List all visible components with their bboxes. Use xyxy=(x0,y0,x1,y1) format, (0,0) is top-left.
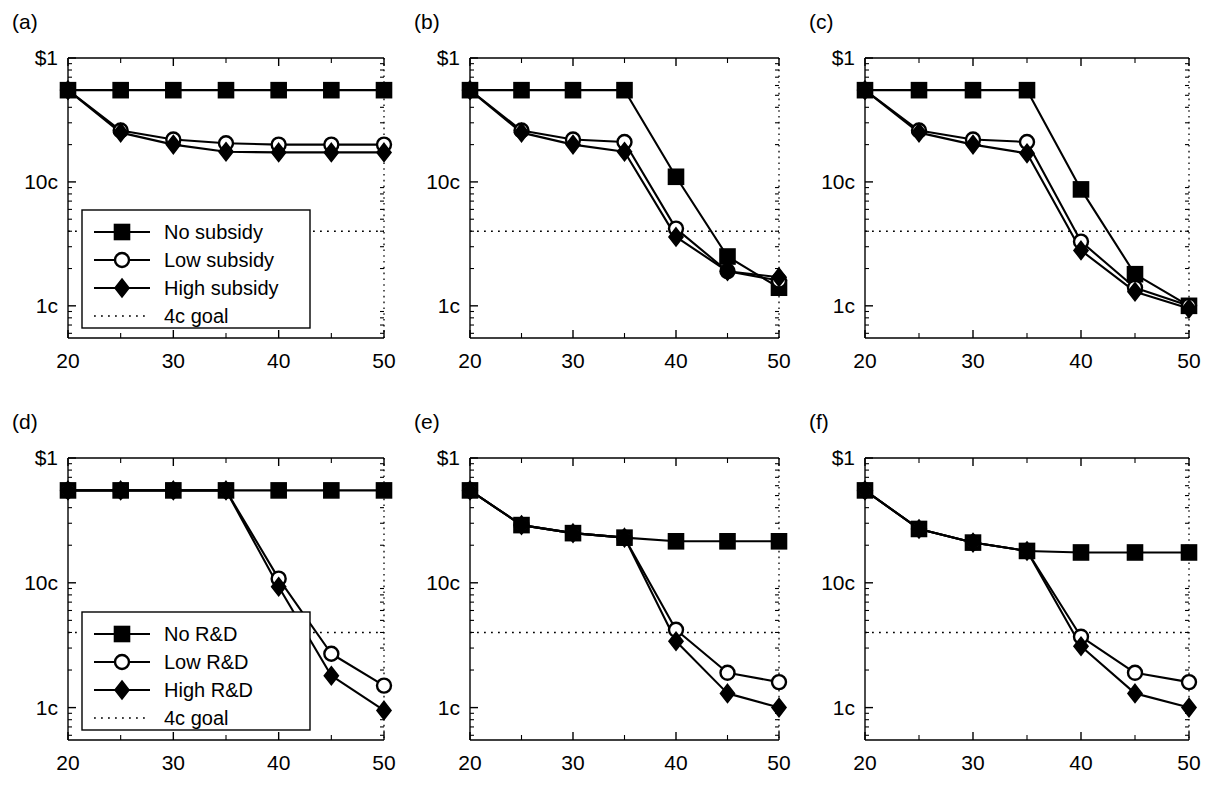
x-tick-label: 40 xyxy=(267,349,290,372)
legend-marker-circle-open xyxy=(115,253,129,267)
panel-plot-c: $110c1c20304050 xyxy=(797,0,1207,400)
marker-square-filled xyxy=(669,534,684,549)
panel-e: (e)$110c1c20304050 xyxy=(402,400,797,802)
panel-label-e: (e) xyxy=(414,410,440,434)
marker-square-filled xyxy=(324,83,339,98)
legend-entry-label: 4c goal xyxy=(164,305,229,327)
legend-entry-label: Low R&D xyxy=(164,651,248,673)
marker-circle-open xyxy=(1182,675,1196,689)
marker-circle-open xyxy=(772,675,786,689)
x-tick-label: 20 xyxy=(56,751,79,774)
panel-label-d: (d) xyxy=(12,410,38,434)
y-tick-label: 1c xyxy=(833,696,855,719)
y-tick-label: 10c xyxy=(24,170,58,193)
marker-circle-open xyxy=(721,666,735,680)
legend-marker-square-filled xyxy=(115,225,130,240)
x-tick-label: 30 xyxy=(162,751,185,774)
legend-entry-label: No R&D xyxy=(164,623,237,645)
marker-square-filled xyxy=(566,83,581,98)
y-tick-label: $1 xyxy=(832,46,855,69)
legend-entry-label: Low subsidy xyxy=(164,249,274,271)
legend-marker-circle-open xyxy=(115,655,129,669)
marker-square-filled xyxy=(271,83,286,98)
x-tick-label: 20 xyxy=(56,349,79,372)
marker-diamond-filled xyxy=(1128,684,1142,702)
x-tick-label: 40 xyxy=(1069,751,1092,774)
x-tick-label: 50 xyxy=(1177,349,1200,372)
y-tick-label: $1 xyxy=(437,46,460,69)
x-tick-label: 20 xyxy=(458,349,481,372)
x-tick-label: 50 xyxy=(767,751,790,774)
panel-plot-a: $110c1c20304050No subsidyLow subsidyHigh… xyxy=(0,0,402,400)
x-tick-label: 30 xyxy=(961,349,984,372)
x-tick-label: 30 xyxy=(561,751,584,774)
marker-square-filled xyxy=(324,483,339,498)
panel-f: (f)$110c1c20304050 xyxy=(797,400,1207,802)
x-tick-label: 20 xyxy=(853,349,876,372)
y-tick-label: $1 xyxy=(437,446,460,469)
y-tick-label: 1c xyxy=(36,696,58,719)
marker-square-filled xyxy=(377,83,392,98)
panel-d: (d)$110c1c20304050No R&DLow R&DHigh R&D4… xyxy=(0,400,402,802)
marker-square-filled xyxy=(219,83,234,98)
marker-square-filled xyxy=(720,534,735,549)
legend-entry-label: High R&D xyxy=(164,679,253,701)
panel-a: (a)$110c1c20304050No subsidyLow subsidyH… xyxy=(0,0,402,400)
figure-panel-grid: (a)$110c1c20304050No subsidyLow subsidyH… xyxy=(0,0,1207,802)
y-tick-label: 10c xyxy=(821,170,855,193)
legend-entry-label: High subsidy xyxy=(164,277,279,299)
marker-square-filled xyxy=(1074,545,1089,560)
x-tick-label: 40 xyxy=(267,751,290,774)
marker-square-filled xyxy=(966,83,981,98)
marker-square-filled xyxy=(1074,182,1089,197)
marker-square-filled xyxy=(166,83,181,98)
panel-label-b: (b) xyxy=(414,10,440,34)
x-tick-label: 30 xyxy=(162,349,185,372)
marker-square-filled xyxy=(617,83,632,98)
marker-diamond-filled xyxy=(772,699,786,717)
x-tick-label: 30 xyxy=(961,751,984,774)
marker-square-filled xyxy=(514,83,529,98)
x-tick-label: 50 xyxy=(372,349,395,372)
marker-circle-open xyxy=(324,647,338,661)
marker-diamond-filled xyxy=(1182,699,1196,717)
legend-entry-label: 4c goal xyxy=(164,707,229,729)
x-tick-label: 40 xyxy=(1069,349,1092,372)
y-tick-label: 10c xyxy=(426,170,460,193)
y-tick-label: $1 xyxy=(35,46,58,69)
x-tick-label: 40 xyxy=(664,751,687,774)
y-tick-label: $1 xyxy=(832,446,855,469)
marker-square-filled xyxy=(1182,545,1197,560)
panel-label-f: (f) xyxy=(809,410,829,434)
panel-plot-b: $110c1c20304050 xyxy=(402,0,797,400)
marker-circle-open xyxy=(1128,666,1142,680)
y-tick-label: 1c xyxy=(36,294,58,317)
panel-c: (c)$110c1c20304050 xyxy=(797,0,1207,400)
x-tick-label: 40 xyxy=(664,349,687,372)
x-tick-label: 30 xyxy=(561,349,584,372)
y-tick-label: $1 xyxy=(35,446,58,469)
y-tick-label: 10c xyxy=(821,571,855,594)
marker-square-filled xyxy=(1128,267,1143,282)
panel-plot-f: $110c1c20304050 xyxy=(797,400,1207,802)
marker-diamond-filled xyxy=(377,701,391,719)
x-tick-label: 50 xyxy=(767,349,790,372)
marker-square-filled xyxy=(669,169,684,184)
y-tick-label: 10c xyxy=(24,571,58,594)
marker-square-filled xyxy=(377,483,392,498)
marker-square-filled xyxy=(271,483,286,498)
legend-entry-label: No subsidy xyxy=(164,221,263,243)
marker-square-filled xyxy=(1020,83,1035,98)
panel-label-a: (a) xyxy=(12,10,38,34)
y-tick-label: 1c xyxy=(833,294,855,317)
marker-square-filled xyxy=(113,83,128,98)
y-tick-label: 10c xyxy=(426,571,460,594)
marker-square-filled xyxy=(772,534,787,549)
y-tick-label: 1c xyxy=(438,294,460,317)
panel-plot-d: $110c1c20304050No R&DLow R&DHigh R&D4c g… xyxy=(0,400,402,802)
series-line-low-r-d xyxy=(865,490,1189,682)
x-tick-label: 50 xyxy=(1177,751,1200,774)
marker-square-filled xyxy=(912,83,927,98)
x-tick-label: 20 xyxy=(458,751,481,774)
legend-marker-square-filled xyxy=(115,627,130,642)
